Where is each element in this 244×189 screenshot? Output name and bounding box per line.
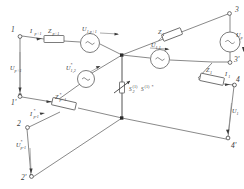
impedance-label-top-right: Z 1 (158, 28, 164, 37)
source-mid-left (78, 71, 95, 88)
impedance-sub-top-right: 1 (162, 32, 164, 37)
voltage-arrow-far-right (242, 47, 244, 52)
impedance-star-bottom-left: * (59, 92, 61, 97)
source-mid-right (151, 50, 170, 69)
current-base-top-left: I (29, 27, 33, 34)
terminal-label-3p: 3' (233, 55, 240, 64)
voltage-label-top-mid: U 1,p+1 (82, 25, 97, 35)
impedance-sub-right: 1 (210, 70, 212, 75)
voltage-arrow-left (18, 88, 21, 93)
voltage-sub-bottom-left: p-1 (20, 145, 26, 150)
current-arrow-bottom-left (46, 100, 52, 103)
node-center-top (120, 53, 123, 56)
terminal-label-1p: 1' (11, 98, 17, 107)
wire-diag-lower (33, 118, 122, 177)
voltage-arrow-bottom-left (29, 169, 32, 174)
schematic-figure: 1 1' 2 2' 3 3' 4 4' I p+1 Z p+1 U 1,p+1 (0, 0, 244, 189)
node-group (19, 53, 236, 177)
current-arrow-bottom-left2 (40, 112, 45, 115)
current-label-top-left: I p+1 (29, 27, 41, 36)
current-sub-bottom-left: p-1 (32, 114, 38, 119)
voltage-arrow-top-mid (114, 33, 119, 36)
current-base-bottom-left: I (29, 110, 33, 117)
impedance-base-bottom-left: Z (55, 93, 59, 100)
current-sub-top-left: p+1 (34, 31, 42, 36)
voltage-label-right-low: U 1 (232, 107, 239, 116)
wire-top-5 (170, 60, 212, 62)
current-label-bottom-left: I p-1 * (29, 108, 39, 119)
center-base-left: S (129, 86, 132, 92)
impedance-z-top-right (161, 28, 182, 42)
impedance-z-top-left (44, 36, 64, 43)
impedance-sub-bottom-left: p+1 (58, 97, 66, 102)
voltage-star-bottom-left: * (21, 139, 23, 144)
source-top (81, 34, 100, 53)
node-center-bottom (120, 116, 123, 119)
impedance-label-top-left: Z p+1 (48, 27, 59, 36)
center-star-right: * (151, 84, 153, 89)
current-sub-right: 1 (228, 74, 230, 79)
terminal-4p-dot (226, 136, 230, 140)
center-base-right: S (141, 86, 144, 92)
current-star-bottom-left: * (33, 108, 35, 113)
voltage-sub-right-low: 1 (237, 111, 239, 116)
terminal-1p-dot (18, 95, 22, 99)
voltage-sub-mid-left: 1,2 (71, 68, 76, 74)
center-sup-right: (1) (145, 84, 150, 89)
center-sub-left: 2 (133, 89, 135, 94)
impedance-label-right: Z 1 (206, 66, 212, 75)
terminal-3-dot (228, 12, 232, 16)
voltage-label-mid-right: U 1,1 (151, 41, 161, 51)
terminal-2-dot (26, 126, 30, 130)
label-group: 1 1' 2 2' 3 3' 4 4' I p+1 Z p+1 U 1,p+1 (10, 5, 243, 182)
terminal-1-dot (18, 35, 22, 39)
impedance-base-top-left: Z (48, 27, 52, 34)
voltage-label-mid-left: U 1,2 * (66, 62, 76, 74)
center-label-group: S (1) 2 S (1) * (129, 84, 153, 94)
impedance-sub-top-left: p+1 (51, 31, 59, 36)
wire-diag-lower-right (122, 118, 226, 139)
wire-top-2 (64, 41, 80, 42)
wire-diag-upper-mid (92, 55, 122, 73)
current-label-right: I 1 (224, 70, 230, 79)
terminal-label-2p: 2' (21, 173, 27, 182)
terminal-3p-dot (228, 61, 232, 65)
voltage-sub-left: p+1 (14, 68, 22, 73)
schematic-canvas: 1 1' 2 2' 3 3' 4 4' I p+1 Z p+1 U 1,p+1 (0, 0, 244, 189)
wire-top-3 (100, 44, 122, 55)
voltage-label-bottom-left: U p-1 * (16, 139, 26, 150)
terminal-label-2: 2 (17, 119, 21, 128)
wire-top-4 (122, 55, 150, 58)
terminal-label-3: 3 (234, 5, 239, 14)
voltage-sub-far-right: p (240, 35, 243, 40)
voltage-arrow-mid-right (165, 48, 170, 51)
terminal-label-4: 4 (236, 75, 240, 84)
terminal-label-4p: 4' (231, 141, 237, 150)
variable-element (114, 81, 130, 93)
wire-lowleft-2 (78, 108, 122, 118)
terminal-2p-dot (30, 175, 34, 179)
center-sup-left: (1) (133, 84, 138, 89)
voltage-star-mid-left: * (71, 62, 73, 67)
terminal-label-1: 1 (11, 25, 15, 34)
